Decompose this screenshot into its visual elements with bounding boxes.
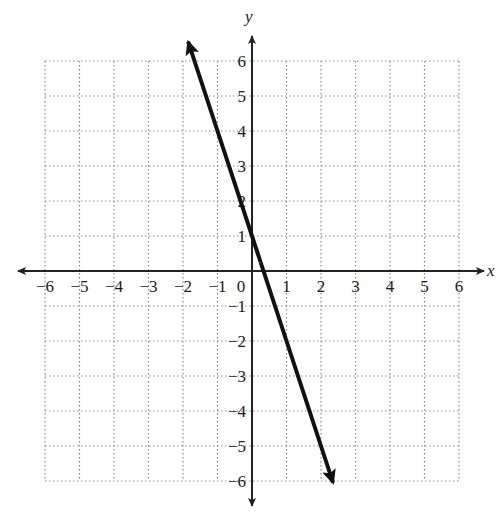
x-tick-label: 5 [420,277,429,296]
x-tick-label: 6 [455,277,464,296]
x-tick-label: −4 [105,277,124,296]
y-tick-label: −6 [228,472,246,491]
x-tick-label: 1 [282,277,291,296]
x-tick-label: 4 [386,277,395,296]
plotted-line [188,42,260,263]
y-tick-label: 6 [238,52,247,71]
x-tick-label: 3 [351,277,360,296]
x-tick-label: −2 [174,277,192,296]
y-tick-label: −3 [228,367,246,386]
x-tick-label: −3 [139,277,157,296]
y-tick-label: 3 [238,157,247,176]
x-tick-label: −1 [208,277,226,296]
axes: x y [18,7,495,506]
y-tick-label: 1 [238,227,247,246]
y-tick-label: 4 [238,122,247,141]
x-axis-label: x [486,261,495,280]
y-tick-label: −2 [228,332,246,351]
y-tick-label: 5 [238,87,247,106]
y-axis-label: y [243,7,253,26]
x-tick-label: −6 [36,277,54,296]
x-tick-label: 2 [317,277,326,296]
y-tick-label: −1 [228,297,246,316]
x-tick-label: −5 [70,277,88,296]
y-tick-label: −5 [228,437,246,456]
coordinate-plane-chart: x y −6−5−4−3−2−10123456654321−1−2−3−4−5−… [0,0,501,521]
y-tick-label: −4 [228,402,247,421]
data-series [188,42,333,483]
x-tick-label: 0 [237,277,246,296]
